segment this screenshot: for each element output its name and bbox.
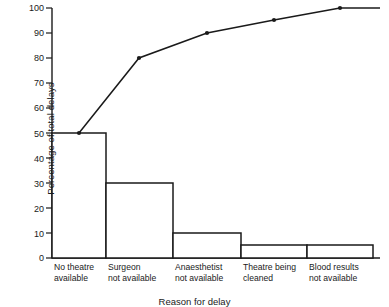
- bar-anaesthetist-not-available: [173, 233, 241, 258]
- category-label-line-1: Theatre being: [243, 262, 296, 272]
- category-label-no-theatre-available: No theatre available: [54, 262, 94, 283]
- y-tick-label-50: 50: [14, 130, 44, 139]
- y-tick-label-20: 20: [14, 205, 44, 214]
- y-tick-label-30: 30: [14, 180, 44, 189]
- bar-blood-results-not-available: [307, 245, 373, 258]
- category-label-line-2: not available: [108, 273, 156, 283]
- category-label-line-2: cleaned: [243, 273, 273, 283]
- bar-surgeon-not-available: [106, 183, 173, 258]
- category-label-line-1: Anaesthetist: [175, 262, 222, 272]
- bar-theatre-being-cleaned: [241, 245, 307, 258]
- category-label-anaesthetist-not-available: Anaesthetist not available: [175, 262, 223, 283]
- marker-point-90: [205, 31, 209, 35]
- category-label-line-2: not available: [175, 273, 223, 283]
- x-axis-title: Reason for delay: [0, 296, 389, 307]
- y-tick-label-90: 90: [14, 29, 44, 38]
- bars-group: [52, 133, 373, 258]
- cumulative-line: [79, 8, 340, 133]
- category-label-line-1: Surgeon: [108, 262, 141, 272]
- category-label-theatre-being-cleaned: Theatre being cleaned: [243, 262, 296, 283]
- y-tick-label-10: 10: [14, 230, 44, 239]
- y-tick-label-100: 100: [14, 4, 44, 13]
- category-label-line-2: available: [54, 273, 88, 283]
- y-tick-label-80: 80: [14, 54, 44, 63]
- marker-point-95: [272, 18, 276, 22]
- category-label-line-1: No theatre: [54, 262, 94, 272]
- y-tick-label-40: 40: [14, 155, 44, 164]
- y-tick-label-70: 70: [14, 79, 44, 88]
- marker-point-100: [338, 6, 342, 10]
- category-label-surgeon-not-available: Surgeon not available: [108, 262, 156, 283]
- category-label-line-2: not available: [309, 273, 357, 283]
- cumulative-markers: [77, 6, 342, 135]
- marker-point-50: [77, 131, 81, 135]
- category-label-line-1: Blood results: [309, 262, 359, 272]
- y-tick-label-60: 60: [14, 104, 44, 113]
- marker-point-80: [137, 56, 141, 60]
- y-axis-title: Percentage of total delays: [45, 19, 56, 259]
- y-tick-label-0: 0: [14, 254, 44, 263]
- category-label-blood-results-not-available: Blood results not available: [309, 262, 359, 283]
- bar-no-theatre-available: [52, 133, 106, 258]
